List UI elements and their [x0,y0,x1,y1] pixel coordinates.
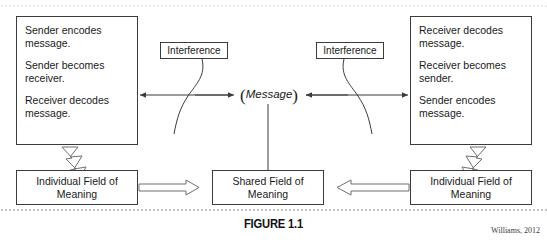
sender-process-line-1: Sender encodes message. [25,24,130,50]
sender-process-line-2: Sender becomes receiver. [25,59,130,85]
receiver-process-line-1: Receiver decodes message. [419,24,524,50]
individual-field-label-right: Individual Field of Meaning [411,175,531,201]
figure-container: Sender encodes message. Sender becomes r… [0,0,547,244]
message-text: Message [246,88,293,100]
receiver-process-line-3: Sender encodes message. [419,94,524,120]
interference-label-right: Interference [323,44,376,57]
individual-field-box-left: Individual Field of Meaning [16,170,138,205]
message-paren-close: ) [292,86,298,105]
receiver-process-box: Receiver decodes message. Receiver becom… [410,16,532,145]
top-dotted-divider [0,5,547,7]
interference-box-left: Interference [160,42,228,59]
shared-field-label: Shared Field of Meaning [213,175,323,201]
sender-process-box: Sender encodes message. Sender becomes r… [16,16,138,145]
shared-field-box: Shared Field of Meaning [212,170,324,205]
individual-field-box-right: Individual Field of Meaning [410,170,532,205]
interference-label-left: Interference [167,44,220,57]
message-label: (Message) [237,88,301,101]
interference-curve-left [174,59,203,134]
receiver-process-line-2: Receiver becomes sender. [419,59,524,85]
individual-field-label-left: Individual Field of Meaning [17,175,137,201]
interference-box-right: Interference [316,42,384,59]
figure-attribution: Williams, 2012 [491,226,540,235]
interference-curve-right [343,59,372,134]
block-arrow-left-to-shared [139,180,199,195]
sender-process-line-3: Receiver decodes message. [25,94,130,120]
figure-caption: FIGURE 1.1 [38,216,508,231]
bottom-dotted-divider [0,209,547,211]
block-arrow-right-to-shared [337,180,409,195]
